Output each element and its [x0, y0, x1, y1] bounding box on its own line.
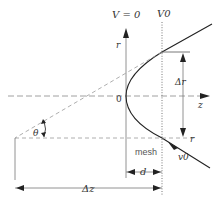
- delta-r-dimension: [180, 53, 186, 137]
- z-axis-label: z: [197, 100, 203, 110]
- v-zero-label: V = 0: [112, 9, 141, 20]
- origin-label: 0: [116, 94, 122, 104]
- delta-r-label: Δr: [174, 77, 186, 87]
- mesh-label: mesh: [135, 147, 157, 157]
- delta-z-label: Δz: [81, 183, 95, 194]
- d-label: d: [140, 166, 146, 177]
- r-axis-label: r: [116, 40, 121, 50]
- r-offset-label: r: [190, 134, 195, 144]
- v0-label: V0: [157, 8, 171, 19]
- r-axis: [123, 28, 129, 178]
- v0-velocity-label: v0: [178, 152, 189, 162]
- trajectory-diagram: V = 0 V0 r z 0 Δr r mesh v0 θ d Δz: [0, 0, 222, 203]
- tangent-line: [15, 52, 162, 138]
- velocity-arrow: [168, 142, 178, 150]
- z-axis: [8, 93, 210, 99]
- theta-label: θ: [33, 128, 39, 138]
